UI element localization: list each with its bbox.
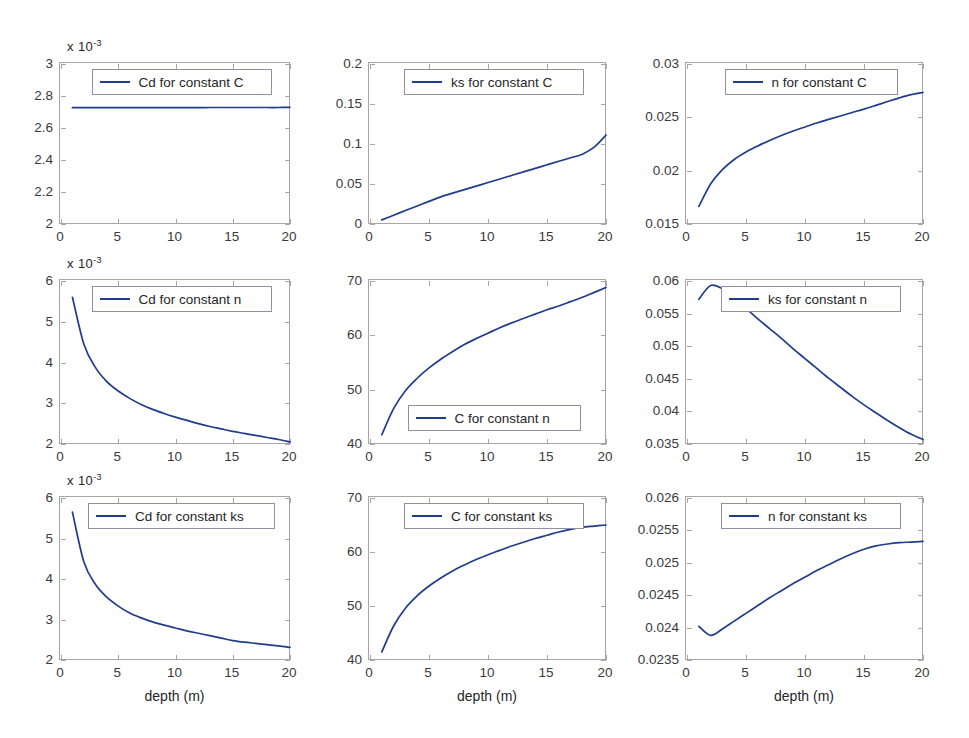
legend[interactable]: n for constant C [725, 69, 898, 95]
y-tick-label: 0.06 [619, 273, 679, 288]
x-tick-label: 10 [167, 229, 182, 244]
y-tick-label: 0.05 [302, 176, 362, 191]
x-tick-label: 10 [479, 229, 494, 244]
x-tick-label: 10 [167, 449, 182, 464]
x-tick-label: 10 [796, 229, 811, 244]
subplot-3: n for constant C0.0150.020.0250.03051015… [685, 62, 923, 224]
plot-area: n for constant ks [685, 496, 923, 660]
x-tick-label: 20 [914, 449, 929, 464]
y-tick-label: 4 [0, 571, 53, 586]
x-tick-label: 0 [365, 229, 373, 244]
y-tick-label: 0.05 [619, 338, 679, 353]
y-tick-label: 0.055 [619, 305, 679, 320]
legend-line-swatch [100, 298, 130, 300]
y-tick-label: 0.0235 [619, 652, 679, 667]
x-tick-label: 20 [914, 229, 929, 244]
x-tick-label: 20 [914, 665, 929, 680]
plot-area: n for constant C [685, 62, 923, 224]
legend-label: C for constant ks [451, 509, 552, 524]
x-tick-label: 5 [741, 665, 749, 680]
legend-label: Cd for constant C [139, 75, 244, 90]
legend-label: ks for constant n [768, 292, 867, 307]
legend[interactable]: Cd for constant C [92, 69, 272, 95]
legend[interactable]: C for constant ks [404, 503, 584, 529]
x-tick-label: 20 [597, 665, 612, 680]
figure-canvas: Cd for constant C22.22.42.62.8305101520x… [0, 0, 969, 738]
y-tick-label: 0.0245 [619, 587, 679, 602]
x-tick-label: 15 [855, 665, 870, 680]
subplot-9: n for constant ks0.02350.0240.02450.0250… [685, 496, 923, 660]
x-tick-label: 0 [56, 229, 64, 244]
legend[interactable]: ks for constant n [721, 286, 901, 312]
legend-line-swatch [412, 515, 442, 517]
legend-line-swatch [412, 81, 442, 83]
y-tick-label: 4 [0, 354, 53, 369]
y-tick-label: 0.02 [619, 162, 679, 177]
legend-label: Cd for constant n [139, 292, 242, 307]
x-tick-label: 15 [224, 449, 239, 464]
y-tick-label: 3 [0, 56, 53, 71]
y-tick-label: 40 [302, 436, 362, 451]
x-tick-label: 20 [597, 229, 612, 244]
x-tick-label: 20 [281, 229, 296, 244]
y-tick-label: 5 [0, 530, 53, 545]
x-tick-label: 15 [224, 665, 239, 680]
plot-area: Cd for constant C [59, 62, 290, 224]
x-tick-label: 20 [281, 665, 296, 680]
y-tick-label: 60 [302, 327, 362, 342]
x-tick-label: 5 [113, 449, 121, 464]
axis-exponent-label: x 10-3 [67, 472, 102, 488]
x-tick-label: 10 [479, 449, 494, 464]
y-tick-label: 60 [302, 544, 362, 559]
legend-line-swatch [733, 81, 763, 83]
x-axis-label: depth (m) [774, 688, 834, 704]
legend-label: n for constant C [772, 75, 867, 90]
x-tick-label: 15 [538, 229, 553, 244]
x-tick-label: 5 [741, 229, 749, 244]
y-tick-label: 0.025 [619, 109, 679, 124]
y-tick-label: 2.4 [0, 152, 53, 167]
legend[interactable]: C for constant n [408, 405, 581, 431]
subplot-7: Cd for constant ks2345605101520x 10-3dep… [59, 496, 290, 660]
legend-label: Cd for constant ks [135, 509, 244, 524]
y-tick-label: 2 [0, 436, 53, 451]
x-tick-label: 15 [855, 229, 870, 244]
axis-exponent-power: -3 [93, 38, 102, 48]
legend[interactable]: n for constant ks [721, 503, 901, 529]
x-axis-label: depth (m) [145, 688, 205, 704]
subplot-4: Cd for constant n2345605101520x 10-3 [59, 279, 290, 444]
plot-area: ks for constant n [685, 279, 923, 444]
axis-exponent-label: x 10-3 [67, 255, 102, 271]
x-tick-label: 10 [796, 449, 811, 464]
y-tick-label: 5 [0, 313, 53, 328]
legend-line-swatch [416, 417, 446, 419]
y-tick-label: 2 [0, 216, 53, 231]
legend[interactable]: Cd for constant n [92, 286, 272, 312]
axis-exponent-power: -3 [93, 472, 102, 482]
legend[interactable]: ks for constant C [404, 69, 584, 95]
x-tick-label: 15 [224, 229, 239, 244]
x-tick-label: 5 [741, 449, 749, 464]
y-tick-label: 0.045 [619, 370, 679, 385]
axis-exponent-mantissa: x 10 [67, 39, 93, 54]
legend-line-swatch [729, 298, 759, 300]
y-tick-label: 3 [0, 395, 53, 410]
y-tick-label: 0.0255 [619, 522, 679, 537]
y-tick-label: 0 [302, 216, 362, 231]
legend-line-swatch [96, 515, 126, 517]
axis-exponent-power: -3 [93, 255, 102, 265]
y-tick-label: 6 [0, 273, 53, 288]
y-tick-label: 0.025 [619, 554, 679, 569]
legend[interactable]: Cd for constant ks [88, 503, 275, 529]
y-tick-label: 3 [0, 611, 53, 626]
x-tick-label: 15 [538, 449, 553, 464]
legend-line-swatch [729, 515, 759, 517]
plot-area: C for constant ks [368, 496, 606, 660]
y-tick-label: 0.026 [619, 490, 679, 505]
y-tick-label: 50 [302, 381, 362, 396]
x-tick-label: 0 [682, 229, 690, 244]
y-tick-label: 2.2 [0, 184, 53, 199]
legend-line-swatch [100, 81, 130, 83]
legend-label: C for constant n [455, 411, 550, 426]
plot-area: Cd for constant n [59, 279, 290, 444]
